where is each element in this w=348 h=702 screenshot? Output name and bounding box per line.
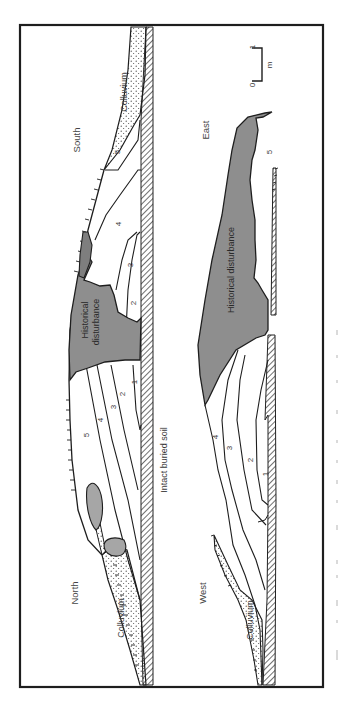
label-west: West [197,582,208,604]
layer-4-we: 4 [211,434,220,439]
buried-soil-hatch [141,27,153,685]
label-south: South [71,128,82,153]
layer-5-south: 5 [113,149,122,154]
layer-5-north: 5 [82,432,91,437]
label-historical-disturbance-we: Historical disturbance [226,227,236,313]
layer-2-we: 2 [246,457,255,462]
label-north: North [69,581,80,604]
layer-5-we: 5 [265,149,274,154]
label-east: East [200,120,211,139]
layer-3-north: 3 [109,404,118,409]
layer-2-north: 2 [118,391,127,396]
scale-bar: 0 1 m [248,44,274,87]
buried-soil-hatch-we [263,335,276,685]
layer-3-we: 3 [225,445,234,450]
layer-1-north: 1 [130,379,139,384]
panel-north-south: South North Intact buried soil Colluvium… [66,27,169,685]
disturbance-ns-small [79,232,92,278]
label-colluvium-south: Colluvium [119,72,129,112]
label-intact-buried-soil: Intact buried soil [159,427,169,493]
disturbance-blob-1 [87,483,103,530]
layer-2-south: 2 [129,300,138,305]
label-colluvium-west: Colluvium [245,600,255,640]
layer-3-south: 3 [126,262,135,267]
label-historical: Historical [80,301,90,338]
scale-one: 1 [248,44,257,49]
section-diagram-figure: South North Intact buried soil Colluvium… [0,0,348,702]
figure-frame [20,25,323,687]
panel-west-east: East West Colluvium Historical disturban… [197,112,278,685]
label-colluvium-north: Colluvium [116,598,126,638]
scale-unit: m [265,61,274,68]
layer-4-south: 4 [114,221,123,226]
layer-1-we: 1 [261,471,270,476]
scale-zero: 0 [248,82,257,87]
label-disturbance: disturbance [91,299,101,346]
layer-4-north: 4 [96,417,105,422]
disturbance-blob-2 [104,538,126,556]
